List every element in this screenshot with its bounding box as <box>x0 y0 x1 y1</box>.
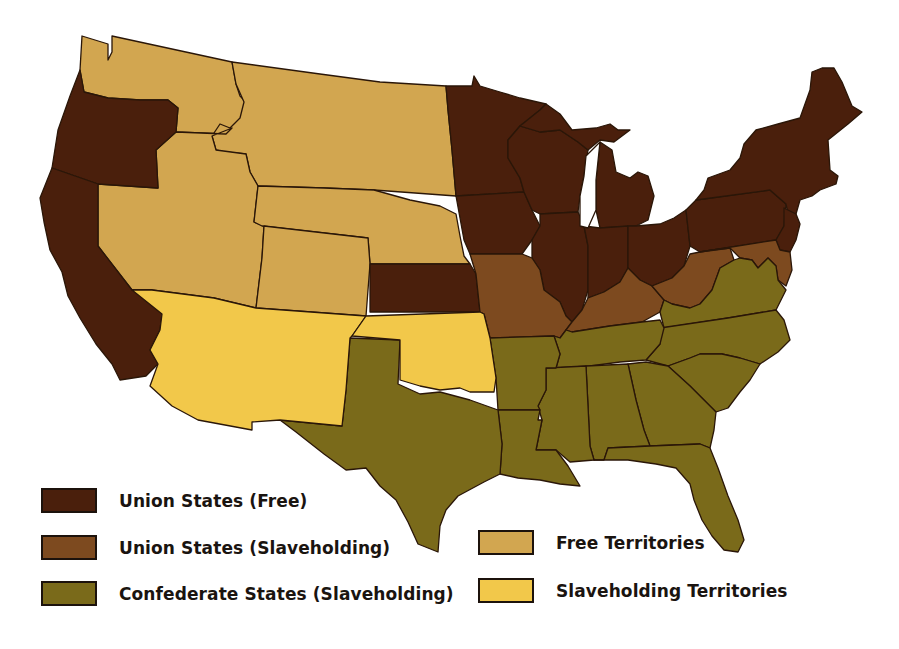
legend-item-slave-territory: Slaveholding Territories <box>478 578 787 603</box>
legend-swatch-slave-territory <box>478 578 534 603</box>
region-kansas <box>370 264 480 312</box>
legend-swatch-union-slave <box>41 535 97 560</box>
legend-label-union-free: Union States (Free) <box>119 491 307 511</box>
legend-swatch-union-free <box>41 488 97 513</box>
legend-item-confederate: Confederate States (Slaveholding) <box>41 581 454 606</box>
legend-item-union-free: Union States (Free) <box>41 488 307 513</box>
legend-item-free-territory: Free Territories <box>478 530 705 555</box>
legend-swatch-free-territory <box>478 530 534 555</box>
region-michigan-lower <box>596 142 654 228</box>
legend-label-free-territory: Free Territories <box>556 533 705 553</box>
legend-label-confederate: Confederate States (Slaveholding) <box>119 584 454 604</box>
region-colorado-territory <box>256 226 370 316</box>
legend-label-slave-territory: Slaveholding Territories <box>556 581 787 601</box>
region-iowa <box>456 192 540 254</box>
legend-label-union-slave: Union States (Slaveholding) <box>119 538 390 558</box>
legend-item-union-slave: Union States (Slaveholding) <box>41 535 390 560</box>
legend-swatch-confederate <box>41 581 97 606</box>
